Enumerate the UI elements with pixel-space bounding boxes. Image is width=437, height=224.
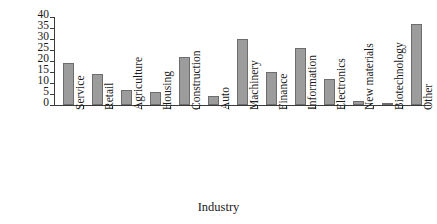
bar [324, 79, 335, 105]
x-axis-category-label: Information [306, 24, 320, 110]
y-axis-tick-mark [50, 28, 54, 29]
x-axis-category-label: Electronics [335, 24, 349, 110]
y-axis-tick-mark [50, 17, 54, 18]
y-axis-line [54, 17, 55, 105]
y-axis-tick-mark [50, 83, 54, 84]
bar-chart: Number of firms 0510152025303540 Service… [0, 0, 437, 224]
y-axis-tick-mark [50, 94, 54, 95]
bar [121, 90, 132, 105]
x-axis-category-label: Construction [190, 24, 204, 110]
x-axis-category-label: Service [74, 24, 88, 110]
x-axis-category-label: New materials [364, 24, 378, 110]
x-axis-category-label: Housing [161, 24, 175, 110]
x-axis-category-label: Auto [219, 24, 233, 110]
bar [266, 72, 277, 105]
y-axis-tick-label: 0 [43, 97, 49, 109]
bar [208, 96, 219, 105]
y-axis-tick-label: 25 [38, 42, 50, 54]
y-axis-tick-label: 35 [38, 20, 50, 32]
y-axis-tick-mark [50, 61, 54, 62]
x-axis-category-label: Agriculture [132, 24, 146, 110]
bar [237, 39, 248, 105]
x-axis-category-label: Other [422, 24, 436, 110]
y-axis-tick-label: 15 [38, 64, 50, 76]
bar [63, 63, 74, 105]
bar [411, 24, 422, 105]
y-axis-tick-label: 5 [43, 86, 49, 98]
bar [179, 57, 190, 105]
bar [382, 103, 393, 105]
y-axis-tick-mark [50, 39, 54, 40]
x-axis-category-label: Retail [103, 24, 117, 110]
y-axis-tick-mark [50, 50, 54, 51]
y-axis-tick-label: 30 [38, 31, 50, 43]
bar [150, 92, 161, 105]
x-axis-category-label: Finance [277, 24, 291, 110]
x-axis-title: Industry [0, 200, 437, 215]
bar [92, 74, 103, 105]
bar [295, 48, 306, 105]
x-axis-category-label: Machinery [248, 24, 262, 110]
y-axis-tick-label: 40 [38, 9, 50, 21]
y-axis-tick-label: 10 [38, 75, 50, 87]
y-axis-tick-mark [50, 72, 54, 73]
x-axis-category-label: Biotechnology [393, 24, 407, 110]
y-axis-tick-mark [50, 105, 54, 106]
y-axis-tick-label: 20 [38, 53, 50, 65]
